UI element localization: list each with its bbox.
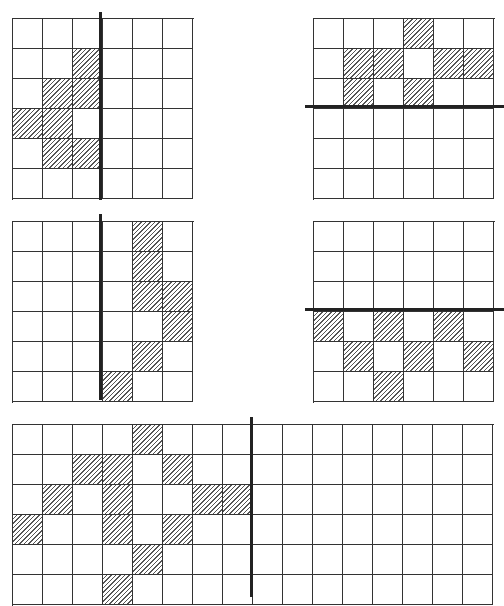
grid-cell	[314, 252, 344, 282]
shaded-cell	[193, 485, 223, 515]
grid-cell	[43, 372, 73, 402]
grid-cell	[13, 139, 43, 169]
grid-cell	[193, 545, 223, 575]
shaded-cell	[223, 485, 253, 515]
grid-cell	[404, 372, 434, 402]
grid-cell	[253, 545, 283, 575]
shaded-cell	[103, 515, 133, 545]
shaded-cell	[103, 485, 133, 515]
grid-cell	[43, 252, 73, 282]
shaded-cell	[133, 222, 163, 252]
grid-cell	[434, 109, 464, 139]
grid-cell	[374, 169, 404, 199]
grid-cell	[43, 282, 73, 312]
grid-cell	[314, 49, 344, 79]
grid-cell	[434, 19, 464, 49]
grid-top-left	[12, 18, 194, 200]
grid-cell	[434, 252, 464, 282]
grid-cell	[133, 515, 163, 545]
grid-cell	[103, 109, 133, 139]
grid-cell	[163, 19, 193, 49]
grid-cell	[103, 79, 133, 109]
grid-cell	[404, 49, 434, 79]
grid-cell	[133, 139, 163, 169]
grid-cell	[313, 425, 343, 455]
grid-cell	[343, 425, 373, 455]
grid-cell	[13, 485, 43, 515]
grid-cell	[43, 342, 73, 372]
grid-cell	[253, 575, 283, 605]
grid-cell	[13, 425, 43, 455]
grid-cell	[253, 515, 283, 545]
grid-cell	[43, 575, 73, 605]
grid-cell	[403, 485, 433, 515]
grid-cell	[223, 455, 253, 485]
grid-cell	[374, 222, 404, 252]
grid-cell	[43, 312, 73, 342]
grid-cell	[13, 19, 43, 49]
grid-cell	[403, 515, 433, 545]
grid-cell	[133, 49, 163, 79]
grid-cell	[193, 575, 223, 605]
grid-cell	[464, 312, 494, 342]
grid-cell	[283, 515, 313, 545]
grid-cell	[163, 169, 193, 199]
grid-cell	[314, 139, 344, 169]
mirror-line-horizontal	[305, 105, 504, 108]
mirror-line-vertical	[99, 214, 102, 400]
grid-cell	[343, 545, 373, 575]
grid-cell	[314, 169, 344, 199]
grid-cell	[103, 169, 133, 199]
grid-cell	[163, 222, 193, 252]
grid-cell	[373, 545, 403, 575]
grid-cell	[343, 515, 373, 545]
shaded-cell	[314, 312, 344, 342]
grid-cell	[73, 425, 103, 455]
grid-middle-left	[12, 221, 194, 403]
shaded-cell	[374, 49, 404, 79]
grid-cell	[283, 425, 313, 455]
grid-cell	[343, 485, 373, 515]
grid-cell	[374, 252, 404, 282]
grid-cell	[313, 545, 343, 575]
mirror-line-vertical	[99, 12, 102, 200]
grid-cell	[373, 485, 403, 515]
grid-cell	[463, 485, 493, 515]
grid-cell	[374, 342, 404, 372]
grid-cell	[464, 139, 494, 169]
grid-cell	[373, 575, 403, 605]
grid-cell	[404, 139, 434, 169]
grid-cell	[463, 425, 493, 455]
grid-cell	[283, 455, 313, 485]
grid-cell	[13, 169, 43, 199]
grid-cell	[434, 222, 464, 252]
shaded-cell	[404, 342, 434, 372]
shaded-cell	[103, 372, 133, 402]
grid-cell	[434, 169, 464, 199]
grid-cell	[433, 425, 463, 455]
grid-cell	[193, 425, 223, 455]
grid-cell	[253, 455, 283, 485]
shaded-cell	[13, 109, 43, 139]
grid-cell	[223, 425, 253, 455]
grid-cell	[373, 515, 403, 545]
shaded-cell	[43, 139, 73, 169]
shaded-cell	[404, 19, 434, 49]
grid-cell	[223, 515, 253, 545]
mirror-line-vertical	[250, 417, 253, 597]
grid-cell	[103, 312, 133, 342]
shaded-cell	[163, 282, 193, 312]
grid-cell	[163, 342, 193, 372]
grid-cell	[403, 425, 433, 455]
shaded-cell	[464, 342, 494, 372]
grid-cell	[133, 485, 163, 515]
grid-cell	[43, 425, 73, 455]
grid-cell	[344, 109, 374, 139]
grid-cell	[193, 455, 223, 485]
grid-cell	[283, 575, 313, 605]
grid-cell	[373, 425, 403, 455]
grid-cell	[193, 515, 223, 545]
shaded-cell	[163, 455, 193, 485]
grid-cell	[343, 455, 373, 485]
grid-cell	[163, 372, 193, 402]
